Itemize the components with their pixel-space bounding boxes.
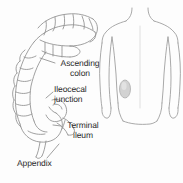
haustral-fold: [63, 15, 65, 30]
torso-location-panel: The appendix is in the lower right quadr…: [98, 0, 183, 183]
haustral-fold: [24, 56, 36, 58]
left-arm-outer-outline: [100, 43, 102, 108]
right-arm-inner-outline: [168, 37, 171, 108]
colon-anatomy-panel: Ascending colon Ileocecal junction Termi…: [0, 0, 100, 183]
haustral-fold: [20, 68, 33, 70]
appendix-right-wall: [42, 141, 46, 156]
torso-left-outline: [112, 37, 118, 103]
hip-right-outline: [157, 103, 162, 121]
haustral-fold: [89, 19, 93, 31]
right-arm-outer-outline: [178, 43, 180, 108]
groin-outline: [123, 121, 157, 124]
leader-line-ileocecal-junction: [46, 92, 53, 98]
torso-right-outline: [162, 37, 168, 103]
right-hand-outline: [169, 108, 178, 118]
transverse-colon-lower-wall: [34, 25, 95, 42]
haustral-fold: [18, 80, 32, 82]
haustra-bulge: [13, 86, 15, 100]
neck-left-outline: [126, 8, 132, 21]
leader-line-ascending-colon: [40, 58, 55, 63]
label-ascending-colon: Ascending colon: [56, 59, 104, 78]
left-shoulder-outline: [102, 21, 126, 43]
label-ileocecal-junction: Ileocecal junction: [54, 85, 98, 104]
cecum-inner-fold: [34, 121, 47, 132]
hip-left-outline: [118, 103, 123, 121]
appendix-location-marker-highlight: [121, 82, 126, 90]
ileocecal-valve-mark: [49, 107, 56, 113]
appendix-left-wall: [36, 142, 40, 157]
appendix-anatomy-figure: Ascending colon Ileocecal junction Termi…: [0, 0, 183, 183]
haustral-fold: [73, 15, 74, 29]
torso-illustration: [98, 0, 183, 183]
cecum-outline: [20, 113, 62, 142]
ileocecal-junction-inner: [53, 104, 62, 109]
ascending-colon-inner-wall: [30, 52, 46, 121]
haustral-fold: [16, 104, 30, 106]
right-shoulder-outline: [154, 21, 178, 43]
haustra-bulge: [20, 50, 25, 61]
haustral-fold: [18, 114, 32, 116]
colon-band-second-cap: [70, 46, 80, 57]
haustral-fold: [16, 92, 30, 94]
neck-right-outline: [148, 8, 154, 21]
haustral-fold: [82, 16, 84, 29]
left-hand-outline: [102, 108, 111, 118]
haustral-fold: [53, 17, 55, 31]
colon-band-second-upper: [40, 40, 70, 46]
left-arm-inner-outline: [109, 37, 112, 108]
label-appendix: Appendix: [17, 159, 65, 169]
leader-line-appendix: [47, 144, 59, 158]
